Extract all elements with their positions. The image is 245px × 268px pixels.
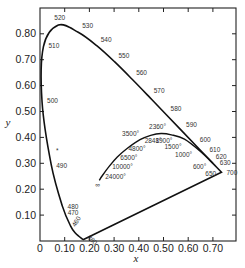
temperature-label: 4800° (128, 145, 145, 152)
wavelength-label: 540 (101, 36, 112, 43)
y-tick-label: 0.10 (16, 209, 37, 221)
x-tick-label: 0 (37, 242, 43, 254)
y-tick-label: 0.80 (16, 27, 37, 39)
annotation-marks: * (56, 147, 59, 154)
star-marker: * (56, 147, 59, 154)
wavelength-label: 480 (68, 203, 79, 210)
temperature-label: 1500° (164, 143, 181, 150)
y-tick-label: 0.20 (16, 183, 37, 195)
y-tick-label: 0.70 (16, 53, 37, 65)
temperature-label: ∞ (95, 181, 100, 188)
wavelength-label: 570 (154, 87, 165, 94)
cie-chromaticity-chart: 00.100.200.300.400.500.600.70 0.100.200.… (0, 0, 245, 268)
wavelength-label: 650 (205, 170, 216, 177)
wavelength-label: 530 (82, 22, 93, 29)
wavelength-label: 560 (136, 69, 147, 76)
y-tick-label: 0.50 (16, 105, 37, 117)
temperature-label: 600° (193, 163, 207, 170)
temperature-label: 10000° (112, 163, 133, 170)
y-axis-title: y (5, 116, 11, 128)
wavelength-label: 510 (48, 42, 59, 49)
wavelength-label: 550 (118, 52, 129, 59)
wavelength-label: 500 (47, 97, 58, 104)
y-tick-label: 0.40 (16, 131, 37, 143)
wavelength-label: 700 (226, 169, 237, 176)
temperature-label: 1000° (175, 151, 192, 158)
x-tick-label: 0.40 (129, 242, 150, 254)
wavelength-label: 490 (56, 162, 67, 169)
wavelength-label: 590 (186, 121, 197, 128)
y-tick-label: 0.60 (16, 79, 37, 91)
x-axis-title: x (133, 252, 139, 264)
y-tick-label: 0.30 (16, 157, 37, 169)
x-tick-label: 0.50 (153, 242, 174, 254)
x-tick-label: 0.20 (79, 242, 100, 254)
wavelength-label: 580 (171, 105, 182, 112)
wavelength-label: 460 (70, 215, 82, 228)
wavelength-label: 470 (68, 209, 79, 216)
wavelength-label: 520 (54, 14, 65, 21)
wavelength-label: 630 (220, 159, 231, 166)
temperature-labels: ∞24000°10000°6500°4800°3500°2848°2360°19… (95, 123, 206, 189)
x-tick-label: 0.60 (178, 242, 199, 254)
temperature-label: 6500° (120, 154, 137, 161)
x-tick-label: 0.70 (203, 242, 224, 254)
x-tick-label: 0.10 (54, 242, 75, 254)
x-tick-label: 0.30 (104, 242, 125, 254)
temperature-label: 24000° (105, 173, 126, 180)
temperature-label: 3500° (122, 130, 139, 137)
wavelength-label: 600 (200, 136, 211, 143)
temperature-label: 2360° (149, 123, 166, 130)
